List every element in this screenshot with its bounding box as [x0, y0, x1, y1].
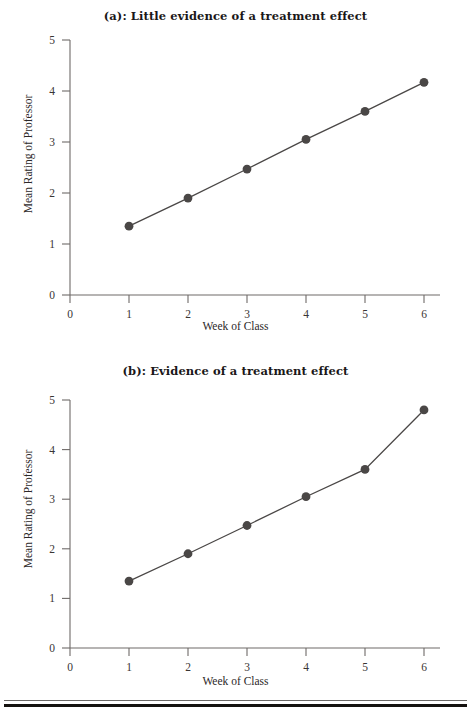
footer-rule-thick — [4, 704, 467, 707]
panel-a-xtick-4: 4 — [303, 308, 309, 320]
chart-panel-b: (b): Evidence of a treatment effect Mean… — [0, 355, 471, 713]
footer-rule-thin — [4, 700, 467, 701]
panel-a-ytick-5: 5 — [49, 34, 55, 46]
panel-b-xtick-5: 5 — [362, 661, 368, 673]
panel-a-xtick-0: 0 — [67, 308, 73, 320]
panel-b-ytick-0: 0 — [49, 642, 55, 654]
panel-b-x-ticks — [70, 648, 424, 656]
panel-b-data-line — [129, 410, 424, 581]
panel-b-svg: 5 4 3 2 1 0 0 1 2 3 4 — [0, 383, 471, 683]
panel-a-ytick-4: 4 — [49, 85, 55, 97]
panel-a-y-ticks — [62, 40, 70, 295]
data-point — [302, 492, 311, 501]
data-point — [184, 549, 193, 558]
data-point — [302, 135, 311, 144]
panel-a-x-tick-labels: 0 1 2 3 4 5 6 — [67, 308, 427, 320]
panel-b-xtick-6: 6 — [421, 661, 427, 673]
panel-b-plot-area: Mean Rating of Professor 5 4 3 2 1 0 — [0, 383, 471, 683]
panel-a-x-axis-label: Week of Class — [0, 320, 471, 332]
chart-panel-a: (a): Little evidence of a treatment effe… — [0, 0, 471, 358]
data-point — [184, 194, 193, 203]
panel-a-data-line — [129, 82, 424, 226]
panel-b-y-ticks — [62, 400, 70, 648]
panel-a-title: (a): Little evidence of a treatment effe… — [0, 9, 471, 23]
panel-a-y-tick-labels: 5 4 3 2 1 0 — [49, 34, 55, 301]
data-point — [125, 577, 134, 586]
panel-b-ytick-3: 3 — [49, 493, 55, 505]
panel-a-ytick-2: 2 — [49, 187, 55, 199]
panel-b-xtick-1: 1 — [126, 661, 132, 673]
panel-a-xtick-5: 5 — [362, 308, 368, 320]
panel-a-xtick-2: 2 — [185, 308, 191, 320]
panel-b-x-axis-label: Week of Class — [0, 675, 471, 687]
panel-b-xtick-2: 2 — [185, 661, 191, 673]
panel-b-y-tick-labels: 5 4 3 2 1 0 — [49, 394, 55, 654]
panel-a-ytick-1: 1 — [49, 238, 55, 250]
panel-b-xtick-0: 0 — [67, 661, 73, 673]
panel-b-ytick-5: 5 — [49, 394, 55, 406]
panel-b-ytick-1: 1 — [49, 592, 55, 604]
data-point — [420, 406, 429, 415]
panel-a-x-ticks — [70, 295, 424, 303]
panel-a-xtick-3: 3 — [244, 308, 250, 320]
panel-b-ytick-2: 2 — [49, 543, 55, 555]
panel-b-x-tick-labels: 0 1 2 3 4 5 6 — [67, 661, 427, 673]
panel-a-plot-area: Mean Rating of Professor 5 4 3 2 1 — [0, 28, 471, 328]
data-point — [243, 521, 252, 530]
panel-b-xtick-4: 4 — [303, 661, 309, 673]
data-point — [420, 78, 429, 87]
panel-b-xtick-3: 3 — [244, 661, 250, 673]
panel-b-data-markers — [125, 406, 429, 586]
panel-a-y-axis-label: Mean Rating of Professor — [22, 74, 34, 234]
panel-a-xtick-6: 6 — [421, 308, 427, 320]
data-point — [361, 465, 370, 474]
footer-rules — [0, 700, 471, 712]
data-point — [361, 107, 370, 116]
panel-a-ytick-3: 3 — [49, 136, 55, 148]
data-point — [125, 222, 134, 231]
panel-a-xtick-1: 1 — [126, 308, 132, 320]
panel-a-ytick-0: 0 — [49, 289, 55, 301]
panel-a-svg: 5 4 3 2 1 0 0 1 2 3 4 — [0, 28, 471, 328]
panel-b-title: (b): Evidence of a treatment effect — [0, 364, 471, 378]
data-point — [243, 165, 252, 174]
panel-b-y-axis-label: Mean Rating of Professor — [22, 429, 34, 589]
panel-b-ytick-4: 4 — [49, 444, 55, 456]
